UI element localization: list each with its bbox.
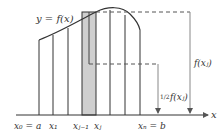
x-axis-label: x (211, 109, 217, 120)
curve-label: y = f(x) (35, 13, 74, 24)
tick-label-x0: x₀ = a (14, 121, 41, 131)
tick-label-xj: xⱼ (94, 121, 102, 131)
tick-label-xjm1: xⱼ₋₁ (73, 121, 89, 131)
annotation-half-height: f(xⱼ) (169, 92, 188, 102)
annotation-half-fraction: 1/2 (160, 93, 170, 100)
tick-label-x1: x₁ (49, 121, 58, 131)
annotation-full-height: f(xⱼ) (193, 58, 212, 68)
riemann-diagram: x y = f(x) x₀ = a x₁ xⱼ₋₁ xⱼ xₙ = b f(xⱼ… (0, 0, 220, 139)
tick-label-xN: xₙ = b (138, 121, 166, 131)
